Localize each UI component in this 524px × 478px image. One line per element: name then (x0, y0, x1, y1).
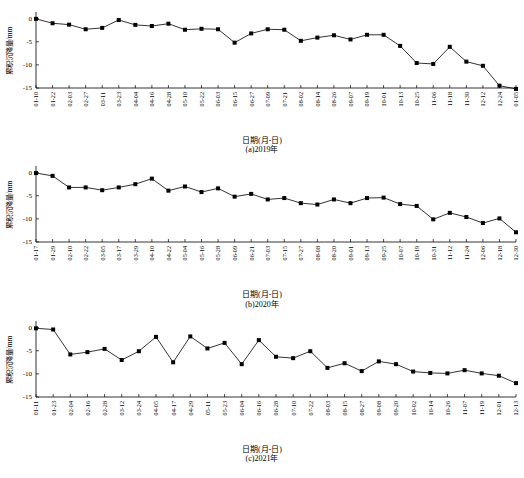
data-point (200, 27, 204, 31)
data-point (448, 211, 452, 215)
data-point (150, 177, 154, 181)
x-tick-label: 01-22 (49, 92, 56, 106)
x-tick-label: 12-24 (496, 92, 503, 106)
x-tick-label: 01-10 (32, 92, 39, 106)
x-tick-label: 02-04 (67, 401, 74, 415)
x-tick-label: 03-23 (115, 92, 122, 106)
data-point (514, 381, 518, 385)
data-point (133, 23, 137, 27)
y-axis-label: 累积沉降量/mm (5, 26, 14, 75)
data-point (223, 341, 227, 345)
data-point (274, 355, 278, 359)
x-tick-label: 07-15 (281, 246, 288, 260)
x-tick-label: 08-15 (341, 401, 348, 415)
data-point (117, 186, 121, 190)
y-tick-label: -15 (23, 393, 33, 401)
data-point (103, 347, 107, 351)
x-tick-label: 03-05 (99, 246, 106, 260)
panel-c-captions: 日期(月-日) (c)2021年 (0, 445, 524, 463)
data-point (200, 190, 204, 194)
y-axis-label: 累积沉降量/mm (5, 181, 14, 230)
x-tick-label: 02-03 (66, 92, 73, 106)
x-tick-label: 04-04 (132, 92, 139, 106)
x-tick-label: 10-07 (397, 246, 404, 260)
data-point (382, 33, 386, 37)
axis-frame (36, 12, 516, 88)
x-tick-label: 10-26 (444, 401, 451, 415)
x-tick-label: 04-16 (148, 92, 155, 106)
data-point (315, 36, 319, 40)
data-point (85, 350, 89, 354)
x-tick-label: 09-20 (392, 401, 399, 415)
x-tick-label: 07-27 (297, 246, 304, 260)
data-point (67, 23, 71, 27)
data-point (497, 84, 501, 88)
x-tick-label: 11-12 (446, 246, 453, 260)
x-tick-label: 09-07 (347, 92, 354, 106)
data-point (266, 27, 270, 31)
panel-a-plot: 0-5-10-15累积沉降量/mm01-1001-2202-0302-2703-… (0, 0, 524, 136)
data-point (365, 196, 369, 200)
data-point (481, 221, 485, 225)
data-point (464, 215, 468, 219)
data-point (332, 33, 336, 37)
panel-c-plot: 0-5-10-15累积沉降量/mm01-1101-2302-0402-1602-… (0, 309, 524, 445)
x-tick-label: 07-09 (264, 92, 271, 106)
data-point (291, 356, 295, 360)
x-tick-label: 09-13 (363, 246, 370, 260)
x-tick-label: 08-26 (330, 92, 337, 106)
data-point (84, 27, 88, 31)
x-tick-label: 05-23 (221, 401, 228, 415)
x-tick-label: 05-04 (181, 246, 188, 260)
x-tick-label: 11-18 (446, 92, 453, 106)
x-tick-label: 05-11 (204, 401, 211, 415)
x-tick-label: 08-20 (330, 246, 337, 260)
x-tick-label: 01-23 (50, 401, 57, 415)
data-point (394, 362, 398, 366)
data-point (133, 183, 137, 187)
x-tick-label: 03-24 (135, 401, 142, 415)
data-point (348, 37, 352, 41)
x-tick-label: 06-15 (231, 92, 238, 106)
x-tick-label: 06-09 (231, 246, 238, 260)
data-point (360, 369, 364, 373)
x-tick-label: 07-03 (264, 246, 271, 260)
data-point (257, 338, 261, 342)
data-point (431, 62, 435, 66)
data-point (51, 21, 55, 25)
panel-a-captions: 日期(月-日) (a)2019年 (0, 136, 524, 154)
x-tick-label: 10-13 (397, 92, 404, 106)
x-tick-label: 05-10 (181, 92, 188, 106)
axis-frame (36, 166, 516, 242)
panel-b-xlabel: 日期(月-日) (0, 290, 524, 299)
data-point (481, 64, 485, 68)
x-tick-label: 04-10 (148, 246, 155, 260)
data-point (282, 28, 286, 32)
panel-a: 0-5-10-15累积沉降量/mm01-1001-2202-0302-2703-… (0, 0, 524, 154)
data-point (154, 335, 158, 339)
x-tick-label: 09-25 (380, 246, 387, 260)
data-point (216, 27, 220, 31)
data-point (249, 192, 253, 196)
x-tick-label: 12-01 (495, 401, 502, 415)
y-tick-label: 0 (29, 169, 33, 177)
y-tick-label: -5 (26, 347, 32, 355)
x-tick-label: 04-17 (170, 401, 177, 415)
x-tick-label: 01-29 (49, 246, 56, 260)
data-point (183, 28, 187, 32)
data-point (315, 203, 319, 207)
x-tick-label: 12-06 (479, 246, 486, 260)
x-tick-label: 02-28 (101, 401, 108, 415)
data-point (411, 369, 415, 373)
x-tick-label: 09-08 (375, 401, 382, 415)
data-point (117, 18, 121, 22)
y-axis-label: 累积沉降量/mm (5, 335, 14, 384)
x-tick-label: 04-28 (165, 92, 172, 106)
data-point (233, 41, 237, 45)
x-tick-label: 07-22 (307, 401, 314, 415)
data-point (266, 198, 270, 202)
data-point (299, 202, 303, 206)
x-tick-label: 11-07 (461, 401, 468, 415)
data-point (343, 361, 347, 365)
data-point (120, 358, 124, 362)
